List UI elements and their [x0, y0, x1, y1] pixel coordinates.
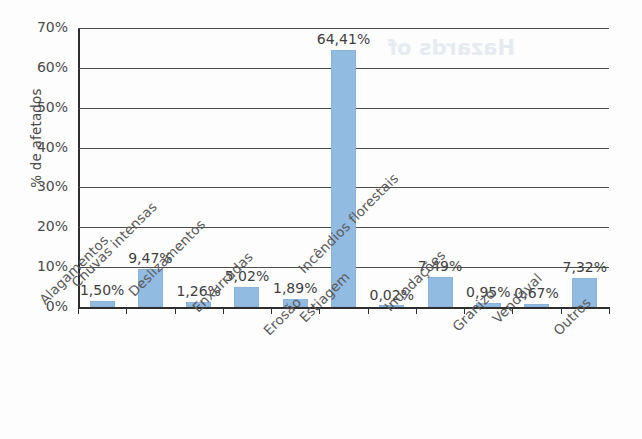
- gridline-0: [78, 307, 609, 309]
- y-tick-label-20: 20%: [8, 218, 68, 234]
- x-tick-6: [368, 307, 369, 314]
- x-tick-7: [416, 307, 417, 314]
- bar-0: [90, 301, 115, 307]
- x-tick-0: [78, 307, 79, 314]
- bar-7: [428, 277, 453, 307]
- x-tick-10: [561, 307, 562, 314]
- y-tick-label-60: 60%: [8, 59, 68, 75]
- gridline-70: [78, 28, 609, 29]
- bar-chart: % de afetados Hazards of 70%60%50%40%30%…: [0, 0, 642, 439]
- x-tick-11: [609, 307, 610, 314]
- y-tick-label-0: 0%: [8, 298, 68, 314]
- x-tick-4: [271, 307, 272, 314]
- x-tick-3: [223, 307, 224, 314]
- bar-3: [234, 287, 259, 307]
- x-tick-2: [175, 307, 176, 314]
- x-tick-1: [126, 307, 127, 314]
- y-tick-label-40: 40%: [8, 139, 68, 155]
- y-tick-label-50: 50%: [8, 99, 68, 115]
- y-tick-label-70: 70%: [8, 19, 68, 35]
- bar-value-label-5: 64,41%: [306, 31, 382, 47]
- bar-5: [331, 50, 356, 307]
- bar-9: [524, 304, 549, 307]
- y-tick-label-30: 30%: [8, 178, 68, 194]
- bar-value-label-10: 7,32%: [547, 259, 623, 275]
